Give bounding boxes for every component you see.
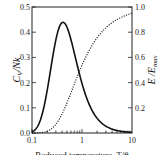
y-tick-label: 0.1 — [20, 104, 30, 113]
y-tick-label: 0.4 — [20, 28, 30, 37]
energy-curve — [32, 13, 132, 133]
y-right-tick-label: 1.0 — [135, 3, 145, 12]
x-tick-label: 10 — [128, 136, 136, 145]
plot-frame — [32, 7, 132, 133]
y-tick-label: 0.5 — [20, 3, 30, 12]
y-right-tick-label: 0.4 — [135, 79, 145, 88]
chart: 0.11100.00.10.20.30.40.50.20.40.60.81.0C… — [0, 0, 163, 155]
heat-capacity-curve — [32, 22, 132, 132]
y-tick-label: 0.0 — [20, 129, 30, 138]
x-tick-label: 1 — [80, 136, 84, 145]
y-right-axis-label: E /Emax — [146, 55, 159, 86]
y-right-tick-label: 0.2 — [135, 104, 145, 113]
y-right-tick-label: 0.6 — [135, 53, 145, 62]
y-right-tick-label: 0.8 — [135, 28, 145, 37]
x-axis-label: Reduced temperature, T/θ — [35, 150, 128, 155]
plot-area: 0.11100.00.10.20.30.40.50.20.40.60.81.0C… — [11, 3, 159, 155]
